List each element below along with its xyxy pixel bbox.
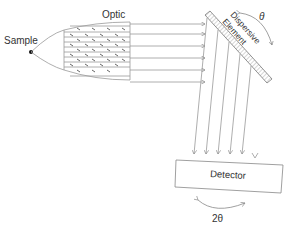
sample-label: Sample xyxy=(4,35,38,46)
theta-label: θ xyxy=(259,11,265,22)
optic-hatch-marks xyxy=(70,28,125,72)
incident-beams xyxy=(130,24,205,82)
diagram-canvas: Sample Optic xyxy=(0,0,290,226)
two-theta-label: 2θ xyxy=(212,213,224,224)
extra-arrowhead xyxy=(252,153,258,158)
two-theta-rotation-arrow[interactable] xyxy=(198,200,245,208)
detector-label: Detector xyxy=(210,168,246,181)
optic xyxy=(31,22,130,80)
optic-label: Optic xyxy=(102,9,125,20)
